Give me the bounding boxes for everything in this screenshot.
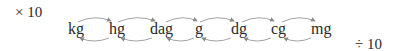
arrow-g-to-dag-icon <box>167 38 194 41</box>
conversion-arrows <box>0 0 394 51</box>
arrow-g-to-dg-icon <box>200 18 234 22</box>
arrow-dg-to-g-icon <box>202 38 231 41</box>
arrow-kg-to-hg-icon <box>78 18 111 22</box>
arrow-cg-to-dg-icon <box>244 38 271 41</box>
arrow-hg-to-dag-icon <box>118 18 155 22</box>
arrow-dag-to-hg-icon <box>121 38 152 41</box>
arrow-hg-to-kg-icon <box>80 38 109 41</box>
arrow-dg-to-cg-icon <box>242 18 274 22</box>
arrow-cg-to-mg-icon <box>282 18 315 22</box>
arrow-dag-to-g-icon <box>166 18 197 22</box>
arrow-mg-to-cg-icon <box>284 38 311 41</box>
